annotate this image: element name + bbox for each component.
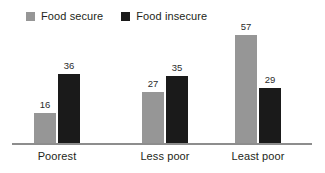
bar-value-label: 29 (253, 75, 287, 85)
bar-value-label: 27 (136, 79, 170, 89)
x-axis-tick-label: Least poor (210, 150, 306, 163)
bar (142, 92, 164, 143)
x-axis-tick-label: Less poor (117, 150, 213, 163)
bar-value-label: 36 (52, 61, 86, 71)
bar (58, 74, 80, 143)
bar (259, 88, 281, 143)
bar-value-label: 16 (28, 100, 62, 110)
bar (166, 76, 188, 143)
bar-chart: Food secure Food insecure 163627355729 P… (0, 0, 325, 173)
bar-value-label: 35 (160, 63, 194, 73)
x-axis-tick-label: Poorest (9, 150, 105, 163)
x-axis-line (12, 143, 312, 145)
bar (34, 113, 56, 143)
bar-value-label: 57 (229, 22, 263, 32)
plot-area: 163627355729 (0, 0, 325, 173)
bar (235, 35, 257, 143)
